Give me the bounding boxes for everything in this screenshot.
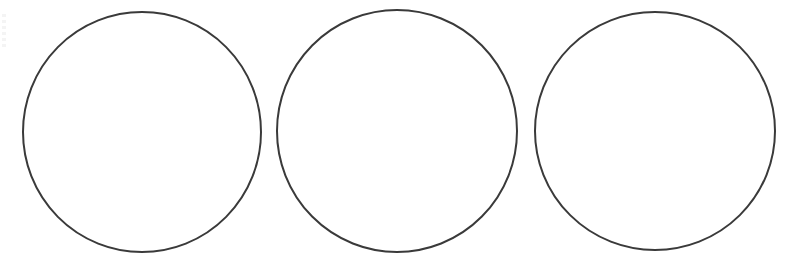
circle-left	[23, 12, 261, 252]
circles-diagram	[0, 0, 797, 263]
circle-middle	[277, 10, 517, 252]
circle-right	[535, 12, 775, 250]
